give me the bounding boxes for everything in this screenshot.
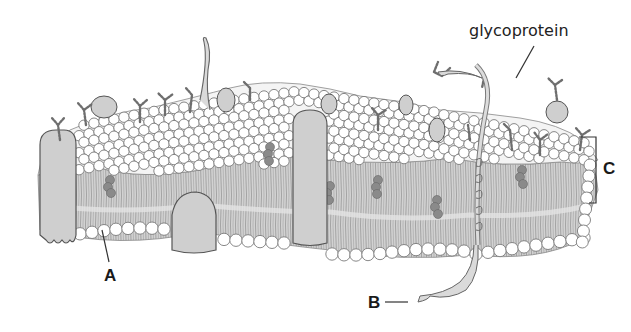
- channel-protein-left: [40, 130, 76, 243]
- glycoprotein-leader: [516, 46, 534, 78]
- channel-protein-center: [293, 110, 327, 246]
- label-c: C: [603, 160, 615, 177]
- glycoprotein-label: glycoprotein: [469, 23, 569, 39]
- label-b: B: [368, 294, 380, 311]
- protein-strand-top: [200, 38, 210, 111]
- peripheral-protein-bottom: [172, 192, 216, 253]
- label-a: A: [104, 267, 116, 284]
- cell-membrane-diagram: [0, 0, 631, 332]
